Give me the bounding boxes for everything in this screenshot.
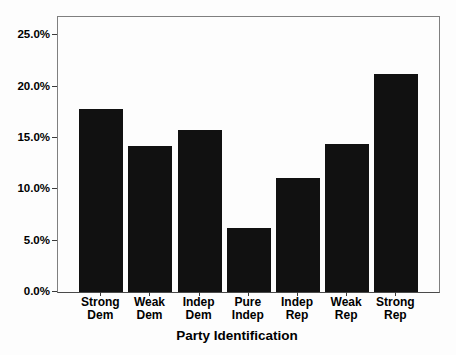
x-axis-title: Party Identification	[176, 328, 298, 343]
y-tick-label: 25.0%	[0, 27, 50, 41]
y-axis-tick	[52, 137, 57, 138]
y-tick-label: 0.0%	[0, 284, 50, 298]
x-category-label-weak-rep: WeakRep	[331, 296, 362, 322]
bar-weak-rep	[325, 144, 369, 292]
y-axis-tick	[52, 291, 57, 292]
bar-indep-rep	[276, 178, 320, 292]
y-axis-tick	[52, 188, 57, 189]
bar-chart-figure: 0.0%5.0%10.0%15.0%20.0%25.0%StrongDemWea…	[0, 0, 456, 355]
y-axis-tick	[52, 86, 57, 87]
x-category-label-pure-indep: PureIndep	[232, 296, 264, 322]
x-category-label-indep-rep: IndepRep	[281, 296, 313, 322]
plot-area	[57, 16, 440, 293]
bar-indep-dem	[178, 130, 222, 292]
x-category-label-indep-dem: IndepDem	[183, 296, 215, 322]
y-tick-label: 10.0%	[0, 181, 50, 195]
x-category-label-strong-rep: StrongRep	[376, 296, 415, 322]
y-tick-label: 5.0%	[0, 233, 50, 247]
x-category-label-strong-dem: StrongDem	[81, 296, 120, 322]
bar-pure-indep	[227, 228, 271, 292]
y-tick-label: 15.0%	[0, 130, 50, 144]
y-tick-label: 20.0%	[0, 79, 50, 93]
x-category-label-weak-dem: WeakDem	[134, 296, 165, 322]
bar-weak-dem	[128, 146, 172, 292]
y-axis-tick	[52, 240, 57, 241]
bar-strong-dem	[79, 109, 123, 292]
bar-strong-rep	[374, 74, 418, 292]
y-axis-tick	[52, 34, 57, 35]
